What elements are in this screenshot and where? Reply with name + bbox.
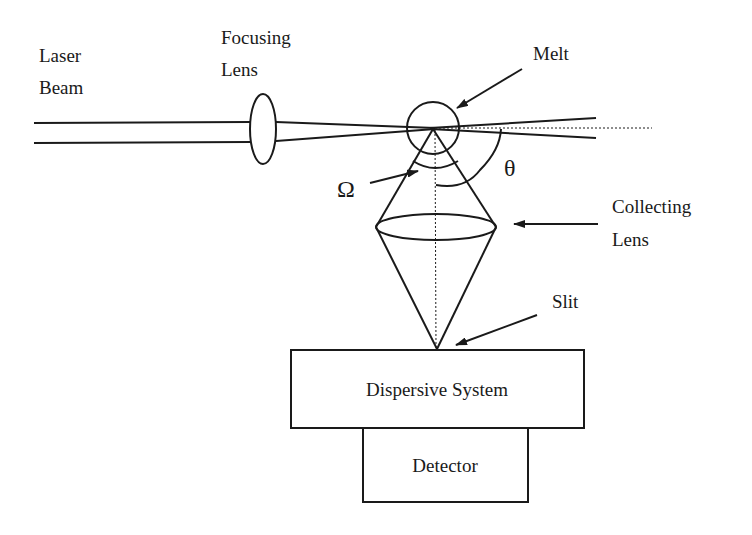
- theta-angle-arc: [436, 129, 501, 186]
- laser-beam: [34, 118, 596, 143]
- omega-label: Ω: [337, 176, 355, 202]
- theta-label: θ: [504, 155, 516, 181]
- laser-beam-label-line2: Beam: [39, 77, 84, 98]
- collecting-lens-label-line1: Collecting: [612, 196, 692, 217]
- focusing-lens-icon: [250, 94, 276, 164]
- slit-arrow: [456, 315, 537, 345]
- focusing-lens-label-line1: Focusing: [221, 27, 291, 48]
- melt-arrow: [457, 69, 522, 108]
- dispersive-system-label: Dispersive System: [366, 379, 508, 400]
- omega-arrow: [370, 171, 418, 183]
- focusing-lens-label-line2: Lens: [221, 59, 258, 80]
- melt-label: Melt: [533, 43, 570, 64]
- slit-label: Slit: [552, 291, 579, 312]
- laser-beam-label-line1: Laser: [39, 45, 82, 66]
- collecting-lens-label-line2: Lens: [612, 229, 649, 250]
- detector-label: Detector: [412, 455, 478, 476]
- diagram-canvas: Laser Beam Focusing Lens Melt Ω θ Collec…: [0, 0, 752, 535]
- collecting-lens-icon: [376, 214, 496, 240]
